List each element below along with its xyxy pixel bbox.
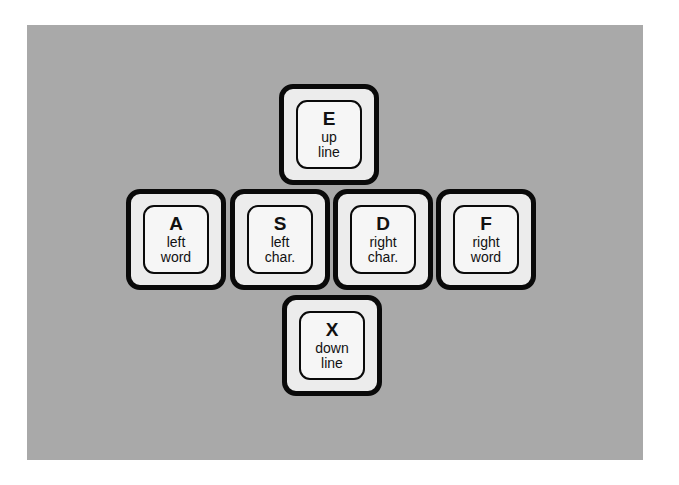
key-e-face: E up line [296, 100, 362, 169]
key-label-line1: up [321, 130, 337, 145]
key-label-line1: down [315, 341, 348, 356]
key-label-line2: word [161, 250, 191, 265]
key-letter: A [169, 214, 183, 233]
key-a-face: A left word [143, 205, 209, 274]
key-label-line2: line [318, 145, 340, 160]
key-a-left-word: A left word [126, 189, 226, 290]
key-label-line1: left [167, 235, 186, 250]
key-f-face: F right word [453, 205, 519, 274]
key-label-line1: right [369, 235, 396, 250]
key-letter: F [480, 214, 492, 233]
key-label-line2: char. [265, 250, 295, 265]
key-label-line2: word [471, 250, 501, 265]
key-label-line2: line [321, 356, 343, 371]
key-label-line1: right [472, 235, 499, 250]
key-f-right-word: F right word [436, 189, 536, 290]
key-d-right-char: D right char. [333, 189, 433, 290]
key-label-line2: char. [368, 250, 398, 265]
key-d-face: D right char. [350, 205, 416, 274]
key-letter: S [274, 214, 287, 233]
key-letter: D [376, 214, 390, 233]
key-s-face: S left char. [247, 205, 313, 274]
key-s-left-char: S left char. [230, 189, 330, 290]
key-x-down-line: X down line [282, 295, 382, 396]
key-label-line1: left [271, 235, 290, 250]
key-letter: E [323, 109, 336, 128]
key-x-face: X down line [299, 311, 365, 380]
key-e-up-line: E up line [279, 84, 379, 185]
key-letter: X [326, 320, 339, 339]
